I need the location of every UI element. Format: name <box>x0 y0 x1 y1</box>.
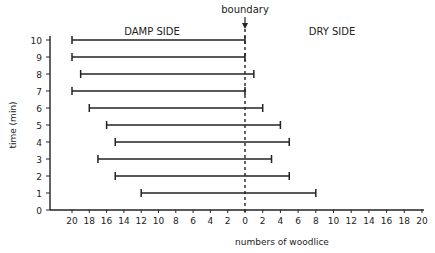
y-tick-label: 0 <box>36 206 42 216</box>
y-tick-label: 7 <box>36 87 42 97</box>
y-tick-label: 10 <box>31 36 43 46</box>
x-tick-label: 2 <box>225 216 231 226</box>
boundary-line <box>242 17 248 212</box>
dry-side-label: DRY SIDE <box>309 26 356 37</box>
x-tick-label: 14 <box>118 216 130 226</box>
x-tick-label: 8 <box>173 216 179 226</box>
y-tick-label: 2 <box>36 172 42 182</box>
x-tick-label: 20 <box>66 216 78 226</box>
x-tick-label: 6 <box>190 216 196 226</box>
x-axis-label: numbers of woodlice <box>235 237 329 247</box>
range-bar <box>115 172 289 180</box>
range-bar <box>81 70 254 78</box>
x-tick-label: 4 <box>278 216 284 226</box>
y-tick-label: 9 <box>36 53 42 63</box>
x-tick-label: 20 <box>416 216 428 226</box>
x-tick-label: 10 <box>328 216 340 226</box>
range-bar <box>89 104 262 112</box>
x-tick-label: 0 <box>242 216 248 226</box>
x-tick-label: 12 <box>345 216 356 226</box>
x-tick-label: 14 <box>363 216 375 226</box>
arrow-down-icon <box>242 23 248 29</box>
y-tick-label: 1 <box>36 189 42 199</box>
x-tick-label: 16 <box>101 216 113 226</box>
x-tick-label: 18 <box>399 216 411 226</box>
axes: 0123456789102018161412108642024681012141… <box>31 36 428 227</box>
range-bars <box>72 36 316 197</box>
range-bar <box>107 121 281 129</box>
y-tick-label: 8 <box>36 70 42 80</box>
boundary-label: boundary <box>221 4 269 15</box>
x-tick-label: 2 <box>260 216 266 226</box>
y-tick-label: 5 <box>36 121 42 131</box>
woodlice-range-chart: 0123456789102018161412108642024681012141… <box>0 0 435 253</box>
range-bar <box>115 138 289 146</box>
range-bar <box>72 87 245 95</box>
x-tick-label: 8 <box>313 216 319 226</box>
range-bar <box>72 36 245 44</box>
x-tick-label: 4 <box>208 216 214 226</box>
range-bar <box>72 53 245 61</box>
x-tick-label: 18 <box>84 216 96 226</box>
range-bar <box>141 189 316 197</box>
y-tick-label: 6 <box>36 104 42 114</box>
y-tick-label: 4 <box>36 138 42 148</box>
y-tick-label: 3 <box>36 155 42 165</box>
x-tick-label: 12 <box>135 216 146 226</box>
x-tick-label: 16 <box>381 216 393 226</box>
y-axis-label: time (min) <box>8 101 18 148</box>
damp-side-label: DAMP SIDE <box>124 26 180 37</box>
x-tick-label: 6 <box>295 216 301 226</box>
x-tick-label: 10 <box>153 216 165 226</box>
